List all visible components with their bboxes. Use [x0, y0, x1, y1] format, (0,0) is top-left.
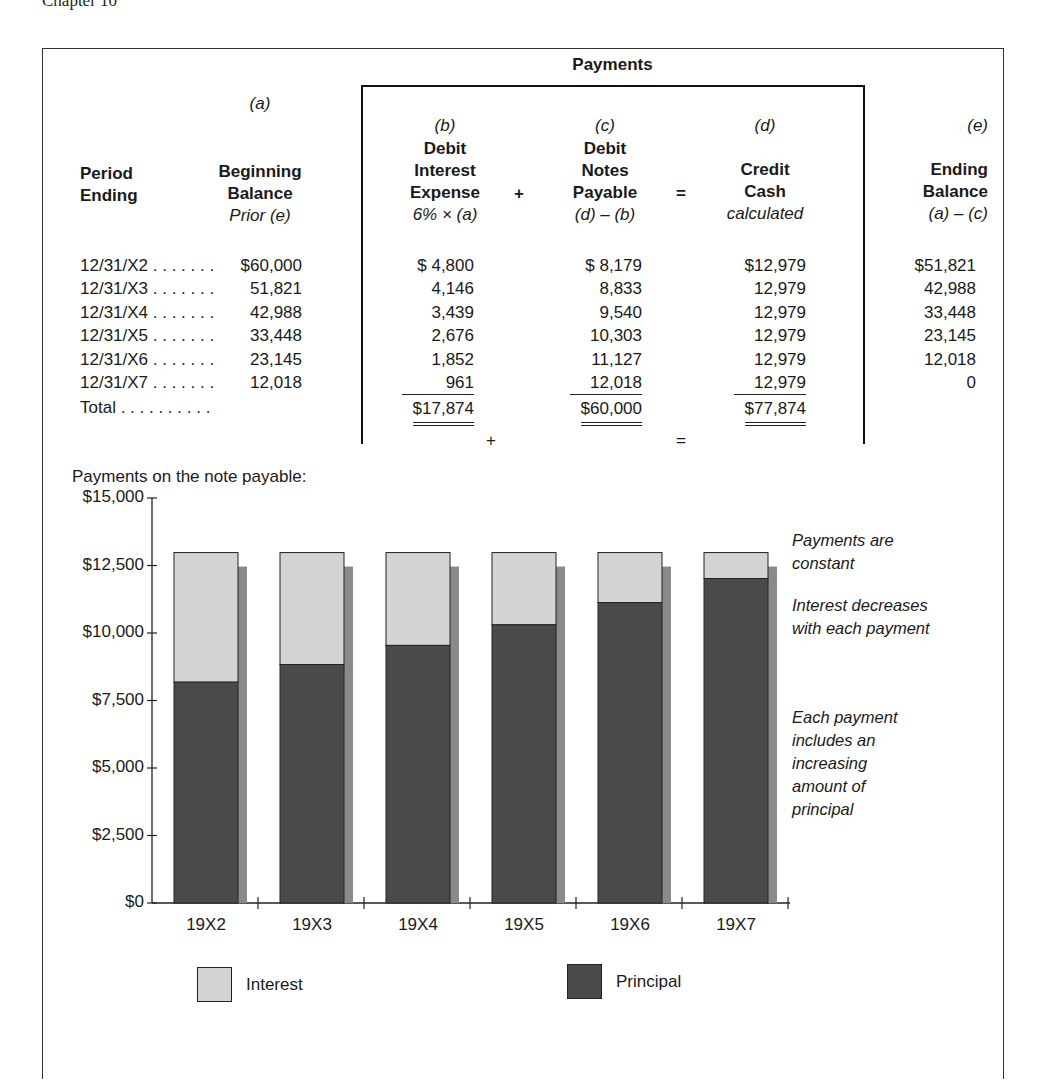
note-interest-decreases: Interest decreases with each payment	[792, 594, 930, 640]
legend-interest: Interest	[197, 967, 303, 1002]
note-payments-constant: Payments are constant	[792, 529, 894, 575]
y-tick-label: $5,000	[54, 757, 144, 777]
y-tick-label: $0	[54, 892, 144, 912]
principal-swatch	[567, 964, 602, 999]
x-tick-label: 19X2	[166, 915, 246, 935]
interest-swatch	[197, 967, 232, 1002]
x-tick-label: 19X4	[378, 915, 458, 935]
y-tick-label: $15,000	[54, 487, 144, 507]
y-tick-label: $7,500	[54, 690, 144, 710]
x-tick-label: 19X7	[696, 915, 776, 935]
note-principal-increases: Each payment includes an increasing amou…	[792, 706, 897, 821]
y-tick-label: $2,500	[54, 825, 144, 845]
legend-principal: Principal	[567, 964, 681, 999]
x-tick-label: 19X6	[590, 915, 670, 935]
y-tick-label: $12,500	[54, 555, 144, 575]
y-tick-label: $10,000	[54, 622, 144, 642]
x-tick-label: 19X3	[272, 915, 352, 935]
x-tick-label: 19X5	[484, 915, 564, 935]
